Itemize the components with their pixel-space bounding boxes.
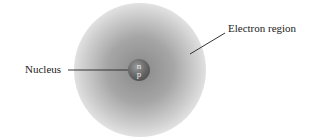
electron-region-label: Electron region xyxy=(228,22,296,34)
proton-label: p xyxy=(128,70,150,78)
nucleus: n p xyxy=(128,59,150,81)
electron-region-leader-line xyxy=(190,33,225,54)
atom-diagram: n p Nucleus Electron region xyxy=(0,0,313,140)
nucleus-label: Nucleus xyxy=(25,63,61,75)
